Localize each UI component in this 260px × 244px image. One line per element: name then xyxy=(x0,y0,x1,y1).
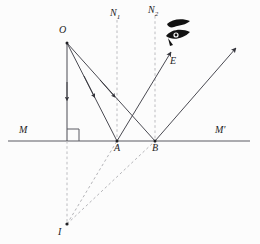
optics-diagram: O N1 N2 E M M' A B I xyxy=(0,0,260,244)
right-angle-marker xyxy=(67,129,79,141)
label-normal-n2-subscript: 2 xyxy=(155,10,159,18)
incident-ray-o-to-b-arrow xyxy=(100,80,114,96)
eye-icon xyxy=(166,19,190,46)
virtual-ray-i-to-a xyxy=(67,141,117,224)
label-mirror-right-m-prime: M' xyxy=(215,125,225,135)
label-point-a: A xyxy=(114,143,120,153)
label-mirror-left-m: M xyxy=(19,125,27,135)
virtual-ray-i-to-b xyxy=(67,141,155,224)
label-normal-n1-text: N xyxy=(110,7,117,18)
reflected-ray-a-to-eye xyxy=(117,52,171,141)
label-normal-n2: N2 xyxy=(148,5,158,18)
point-dot-i xyxy=(65,222,68,225)
label-normal-n1: N1 xyxy=(110,8,120,21)
label-object-o: O xyxy=(59,25,66,35)
ray-diagram-canvas xyxy=(0,0,260,244)
incident-ray-o-to-a-arrow xyxy=(84,76,94,96)
label-eye-e: E xyxy=(170,56,176,66)
label-image-i: I xyxy=(58,227,61,237)
point-dot-o xyxy=(66,42,69,45)
label-normal-n2-text: N xyxy=(148,4,155,15)
label-normal-n1-subscript: 1 xyxy=(117,13,121,21)
label-point-b: B xyxy=(152,143,158,153)
